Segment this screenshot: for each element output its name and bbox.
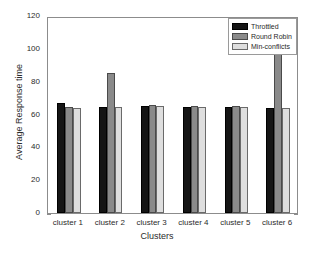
- legend-swatch-icon: [232, 33, 248, 40]
- y-tick-label: 80: [31, 77, 40, 87]
- x-tick-label: cluster 1: [53, 218, 83, 228]
- legend-swatch-icon: [232, 23, 248, 30]
- bar-cluster-2-min-conflicts: [115, 107, 123, 213]
- x-tick-label: cluster 5: [220, 218, 250, 228]
- bar-cluster-2-throttled: [99, 107, 107, 213]
- legend-swatch-icon: [232, 43, 248, 50]
- bar-cluster-4-throttled: [183, 107, 191, 213]
- bar-cluster-6-min-conflicts: [282, 108, 290, 213]
- bar-cluster-1-throttled: [57, 103, 65, 213]
- bar-cluster-5-throttled: [225, 107, 233, 213]
- bar-cluster-1-min-conflicts: [73, 108, 81, 213]
- figure-canvas: 020406080100120 cluster 1cluster 2cluste…: [0, 0, 314, 254]
- legend-label: Min-conflicts: [251, 43, 290, 51]
- x-tick-label: cluster 6: [262, 218, 292, 228]
- bar-cluster-2-round-robin: [107, 73, 115, 213]
- bar-cluster-4-round-robin: [191, 106, 199, 213]
- y-tick-label: 0: [36, 208, 40, 218]
- x-tick-label: cluster 4: [178, 218, 208, 228]
- y-axis-title: Average Response time: [14, 22, 24, 202]
- x-tick-label: cluster 2: [95, 218, 125, 228]
- legend-item-round-robin[interactable]: Round Robin: [232, 32, 293, 41]
- legend-item-min-conflicts[interactable]: Min-conflicts: [232, 42, 293, 51]
- y-tick-label: 20: [31, 175, 40, 185]
- y-tick-label: 40: [31, 142, 40, 152]
- bar-cluster-6-throttled: [266, 108, 274, 213]
- x-axis-title: Clusters: [0, 231, 314, 241]
- legend-item-throttled[interactable]: Throttled: [232, 22, 293, 31]
- legend-label: Throttled: [251, 23, 279, 31]
- bar-cluster-3-min-conflicts: [156, 106, 164, 213]
- bar-cluster-4-min-conflicts: [198, 107, 206, 213]
- chart-legend: ThrottledRound RobinMin-conflicts: [228, 18, 297, 55]
- y-tick-label: 120: [27, 11, 40, 21]
- legend-label: Round Robin: [251, 33, 292, 41]
- y-tick-mark-right: [294, 214, 298, 215]
- y-tick-label: 100: [27, 44, 40, 54]
- bar-cluster-5-round-robin: [232, 106, 240, 213]
- x-tick-label: cluster 3: [136, 218, 166, 228]
- y-tick-mark: [47, 214, 51, 215]
- bar-cluster-5-min-conflicts: [240, 107, 248, 213]
- bar-cluster-3-throttled: [141, 106, 149, 213]
- bar-cluster-1-round-robin: [65, 107, 73, 213]
- y-tick-label: 60: [31, 110, 40, 120]
- bar-cluster-3-round-robin: [149, 105, 157, 213]
